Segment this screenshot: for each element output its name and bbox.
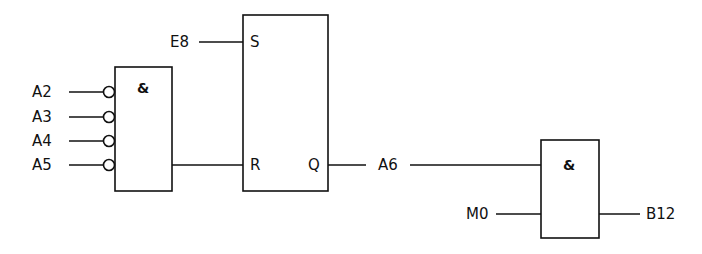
input-label-a2: A2 [32, 83, 52, 101]
input-label-a3: A3 [32, 108, 52, 126]
and-gate-2-symbol: & [563, 157, 575, 173]
input-label-m0: M0 [466, 205, 489, 223]
input-a2: A2 [32, 83, 115, 101]
and-gate-1-inputs: A2 A3 A4 A5 [32, 83, 115, 174]
logic-diagram: & A2 A3 A4 A5 S R Q E8 [0, 0, 702, 254]
and-gate-2-box [541, 140, 599, 238]
set-input-label: E8 [170, 33, 189, 51]
input-a3: A3 [32, 108, 115, 126]
and-gate-1: & [115, 67, 172, 191]
output-pin-label: Q [308, 156, 320, 174]
input-label-a4: A4 [32, 132, 52, 150]
sr-flipflop: S R Q [243, 15, 328, 191]
input-a4: A4 [32, 132, 115, 150]
and-gate-2: & [541, 140, 599, 238]
negation-bubble-icon [104, 160, 115, 171]
negation-bubble-icon [104, 87, 115, 98]
input-a5: A5 [32, 156, 115, 174]
reset-pin-label: R [250, 156, 260, 174]
set-pin-label: S [250, 33, 260, 51]
negation-bubble-icon [104, 136, 115, 147]
output-label-b12: B12 [646, 205, 675, 223]
and-gate-1-symbol: & [137, 80, 149, 96]
negation-bubble-icon [104, 112, 115, 123]
input-label-a5: A5 [32, 156, 52, 174]
signal-label-a6: A6 [378, 156, 398, 174]
